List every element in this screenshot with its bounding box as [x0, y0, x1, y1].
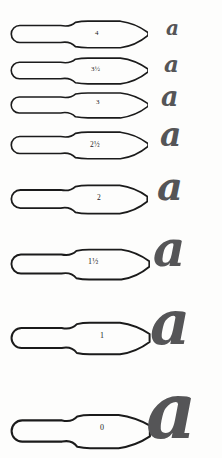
nib-size-chart: 4a3½a3a2½a2a1½a1a0a: [0, 0, 222, 458]
letter-sample: a: [166, 18, 179, 38]
nib-outline-icon: [10, 246, 150, 282]
nib-outline-icon: [10, 18, 148, 50]
nib-size-label: 2: [97, 194, 101, 202]
letter-sample: a: [153, 224, 185, 274]
letter-sample: a: [150, 292, 190, 354]
nib-outline-icon: [10, 411, 152, 451]
letter-sample: a: [146, 372, 197, 450]
letter-sample: a: [160, 118, 181, 151]
nib-size-label: 0: [100, 424, 104, 432]
letter-sample: a: [164, 52, 179, 75]
nib-outline-icon: [10, 129, 148, 161]
nib-figure: [10, 319, 151, 361]
letter-sample: a: [161, 83, 179, 110]
nib-size-label: 2½: [90, 141, 100, 149]
nib-figure: [10, 246, 150, 286]
nib-outline-icon: [10, 182, 148, 216]
nib-size-label: 1½: [88, 258, 98, 266]
nib-figure: [10, 90, 148, 124]
nib-size-label: 3: [96, 99, 100, 106]
nib-outline-icon: [10, 55, 148, 86]
nib-size-label: 1: [100, 332, 104, 340]
nib-figure: [10, 411, 152, 455]
nib-outline-icon: [10, 90, 148, 120]
nib-outline-icon: [10, 319, 151, 357]
nib-figure: [10, 182, 148, 220]
nib-figure: [10, 55, 148, 90]
letter-sample: a: [157, 166, 183, 206]
nib-figure: [10, 129, 148, 165]
nib-size-label: 4: [95, 30, 99, 37]
nib-size-label: 3½: [91, 66, 100, 73]
nib-figure: [10, 18, 148, 54]
